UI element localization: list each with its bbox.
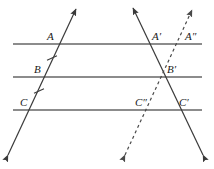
point-label-B: B [34, 64, 41, 75]
geometry-canvas [0, 0, 214, 169]
transversals-group [8, 8, 203, 155]
geometry-diagram: A B C A′ B′ C′ A″ C″ [0, 0, 214, 169]
left-transversal [8, 9, 76, 155]
point-label-A-prime: A′ [152, 31, 161, 42]
parallel-lines-group [13, 44, 202, 110]
point-label-A-double-prime: A″ [185, 31, 196, 42]
point-label-C: C [20, 97, 27, 108]
point-label-C-prime: C′ [179, 97, 189, 108]
point-label-B-prime: B′ [167, 64, 176, 75]
point-label-C-double-prime: C″ [135, 97, 147, 108]
point-label-A: A [47, 31, 54, 42]
